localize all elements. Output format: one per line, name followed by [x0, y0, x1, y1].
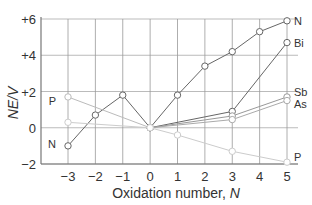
- data-point: [65, 94, 71, 100]
- x-tick-label: −3: [61, 169, 76, 184]
- x-tick-label: −2: [88, 169, 103, 184]
- y-axis-title: NE/V: [5, 85, 21, 119]
- x-axis-title-text: Oxidation number,: [112, 185, 230, 201]
- data-point: [229, 148, 235, 154]
- data-point: [92, 112, 98, 118]
- x-axis-title-var: N: [230, 185, 241, 201]
- data-point: [256, 28, 262, 34]
- y-tick-label: +2: [21, 85, 36, 100]
- data-point: [284, 39, 290, 45]
- x-tick-label: 5: [283, 169, 290, 184]
- series-sb: [147, 94, 290, 131]
- data-point: [174, 132, 180, 138]
- y-tick-label: +6: [21, 12, 36, 27]
- frost-diagram-chart: −20+2+4+6−3−2−1012345 NBiSbAsPPN NE/V Ox…: [0, 0, 312, 205]
- series-label: N: [294, 15, 302, 27]
- y-tick-label: 0: [29, 121, 36, 136]
- series-label: P: [49, 95, 56, 107]
- series-label: Bi: [294, 37, 304, 49]
- y-tick-label: −2: [21, 157, 36, 172]
- series-label: N: [48, 138, 56, 150]
- data-point: [284, 159, 290, 165]
- y-tick-label: +4: [21, 48, 36, 63]
- x-tick-label: −1: [115, 169, 130, 184]
- series-label: Sb: [294, 86, 307, 98]
- data-point: [284, 18, 290, 24]
- data-point: [284, 97, 290, 103]
- data-point: [65, 119, 71, 125]
- data-point: [65, 143, 71, 149]
- data-point: [174, 92, 180, 98]
- grid: [41, 19, 298, 164]
- x-tick-label: 1: [174, 169, 181, 184]
- x-tick-label: 3: [229, 169, 236, 184]
- data-point: [229, 116, 235, 122]
- x-tick-label: 4: [256, 169, 263, 184]
- axes: −20+2+4+6−3−2−1012345: [21, 12, 298, 184]
- x-tick-label: 0: [147, 169, 154, 184]
- data-point: [147, 125, 153, 131]
- series-bi: [147, 39, 290, 131]
- x-tick-label: 2: [201, 169, 208, 184]
- data-point: [202, 63, 208, 69]
- x-axis-title: Oxidation number, N: [112, 185, 241, 201]
- series-line: [150, 97, 287, 128]
- series-label: P: [294, 151, 301, 163]
- series-label: As: [294, 98, 307, 110]
- data-point: [120, 92, 126, 98]
- data-point: [229, 48, 235, 54]
